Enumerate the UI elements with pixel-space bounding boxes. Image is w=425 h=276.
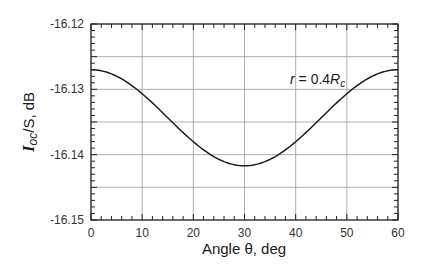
x-tick-label: 10 — [135, 226, 149, 240]
y-tick-label: -16.12 — [50, 17, 84, 31]
x-axis-title: Angle θ, deg — [202, 240, 286, 257]
y-tick-label: -16.15 — [50, 213, 84, 227]
y-tick-labels: -16.15-16.14-16.13-16.12 — [50, 17, 84, 227]
x-tick-label: 20 — [187, 226, 201, 240]
y-axis-title: Ioc/S, dB — [19, 92, 40, 153]
x-tick-labels: 0102030405060 — [88, 226, 405, 240]
x-tick-label: 60 — [391, 226, 405, 240]
grid-lines — [91, 24, 398, 220]
x-tick-label: 0 — [88, 226, 95, 240]
curve-annotation: r = 0.4Rc — [290, 71, 345, 89]
x-tick-label: 40 — [289, 226, 303, 240]
y-tick-label: -16.14 — [50, 148, 84, 162]
x-tick-label: 50 — [340, 226, 354, 240]
chart: 0102030405060 -16.15-16.14-16.13-16.12 A… — [0, 0, 425, 276]
y-tick-label: -16.13 — [50, 82, 84, 96]
x-tick-label: 30 — [238, 226, 252, 240]
